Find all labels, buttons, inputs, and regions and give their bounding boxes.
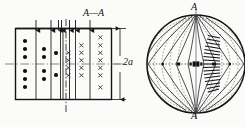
section-mark-bottom: A bbox=[191, 111, 197, 121]
field-dot bbox=[54, 73, 58, 77]
core-marker bbox=[190, 62, 192, 65]
hatch-bar bbox=[205, 76, 221, 78]
hatch-bar bbox=[206, 43, 220, 46]
section-mark-top: A bbox=[191, 2, 197, 12]
field-dot bbox=[23, 39, 27, 43]
hatch-bar bbox=[205, 50, 221, 53]
field-into-page-crosses bbox=[66, 35, 102, 89]
hatch-bar bbox=[206, 83, 220, 85]
core-marker bbox=[162, 63, 164, 65]
field-dot bbox=[54, 51, 58, 55]
field-cross bbox=[98, 58, 102, 62]
cross-column bbox=[79, 43, 83, 77]
field-cross bbox=[79, 58, 83, 62]
core-marker bbox=[177, 63, 181, 66]
hatch-bar bbox=[208, 36, 220, 39]
hatch-bar bbox=[204, 70, 221, 71]
field-dot bbox=[42, 55, 46, 59]
core-marker bbox=[212, 63, 216, 66]
field-cross bbox=[98, 51, 102, 55]
field-cross bbox=[79, 66, 83, 70]
field-dot bbox=[42, 77, 46, 81]
field-cross bbox=[79, 43, 83, 47]
field-cross bbox=[98, 35, 102, 39]
hatch-bar bbox=[204, 57, 221, 59]
field-cross bbox=[98, 73, 102, 77]
field-dot bbox=[23, 55, 27, 59]
core-marker bbox=[229, 63, 231, 65]
field-cross bbox=[98, 43, 102, 47]
field-dot bbox=[23, 85, 27, 89]
field-dot bbox=[23, 47, 27, 51]
field-cross bbox=[79, 73, 83, 77]
dimension-label-2a: 2a bbox=[123, 57, 133, 67]
field-cross bbox=[98, 85, 102, 89]
longitudinal-section-panel bbox=[5, 19, 126, 112]
circular-cross-section-panel bbox=[146, 9, 245, 119]
cross-column bbox=[98, 35, 102, 89]
hatch-bar bbox=[207, 86, 220, 89]
field-cross bbox=[98, 66, 102, 70]
core-marker bbox=[200, 62, 202, 65]
field-dot bbox=[42, 47, 46, 51]
field-dot bbox=[23, 69, 27, 73]
field-dot bbox=[42, 69, 46, 73]
section-label-aa: A—A bbox=[83, 8, 104, 18]
field-dot bbox=[23, 77, 27, 81]
hatch-bar bbox=[204, 73, 220, 75]
hatch-bar bbox=[203, 67, 220, 68]
hatch-bar bbox=[203, 60, 220, 61]
field-cross bbox=[79, 51, 83, 55]
hatch-bar bbox=[205, 46, 220, 49]
